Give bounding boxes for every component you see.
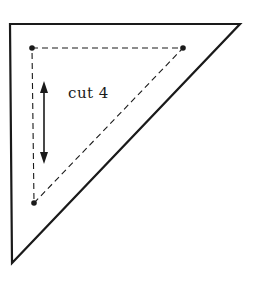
corner-dot-bottom bbox=[31, 200, 37, 206]
corner-dot-top-left bbox=[29, 45, 35, 51]
pattern-diagram bbox=[0, 0, 257, 289]
cut-instruction-label: cut 4 bbox=[68, 84, 109, 102]
corner-dot-top-right bbox=[180, 45, 186, 51]
seam-line bbox=[32, 48, 183, 203]
grain-line-arrow-icon bbox=[40, 81, 48, 164]
